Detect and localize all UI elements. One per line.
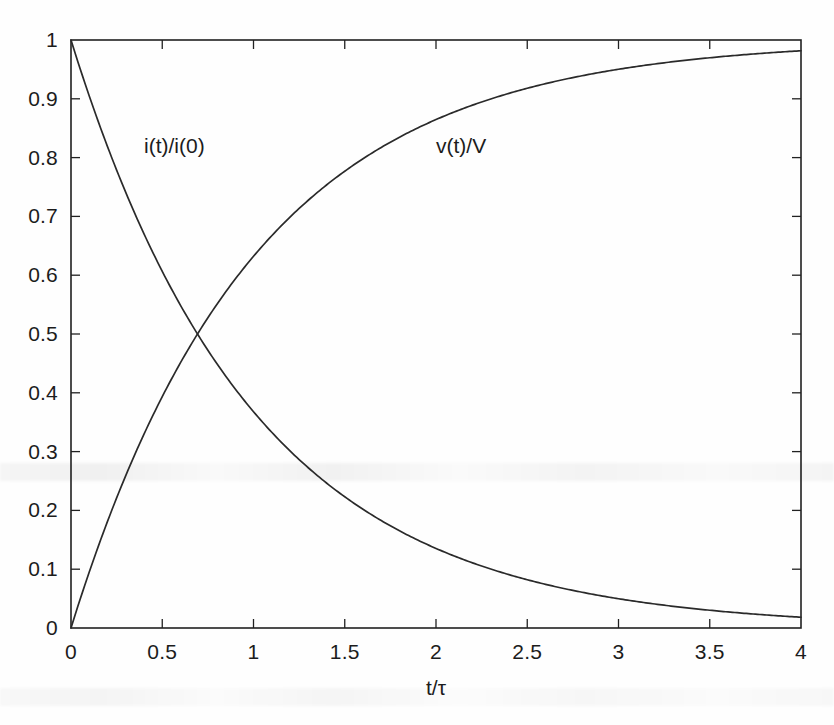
y-tick-label: 0.5	[0, 322, 58, 346]
x-tick-label: 0	[65, 640, 77, 664]
x-tick-label: 1	[248, 640, 260, 664]
curve-label-current: i(t)/i(0)	[144, 134, 205, 158]
y-tick-label: 0.8	[0, 146, 58, 170]
x-tick-label: 0.5	[147, 640, 177, 664]
figure-root: 00.10.20.30.40.50.60.70.80.91 00.511.522…	[0, 0, 834, 725]
y-tick-label: 0.2	[0, 498, 58, 522]
y-tick-label: 0.7	[0, 204, 58, 228]
y-tick-label: 0.9	[0, 87, 58, 111]
y-tick-label: 0.1	[0, 557, 58, 581]
plot-frame	[71, 40, 801, 628]
exponential-transient-plot	[0, 0, 834, 725]
x-axis-title: t/τ	[426, 676, 446, 700]
x-tick-label: 3.5	[695, 640, 725, 664]
tick-marks	[71, 40, 801, 628]
y-tick-label: 0.3	[0, 440, 58, 464]
curve-current-decay	[71, 40, 801, 617]
y-tick-label: 1	[0, 28, 58, 52]
y-tick-label: 0	[0, 616, 58, 640]
curve-label-voltage: v(t)/V	[436, 134, 486, 158]
x-tick-label: 3	[613, 640, 625, 664]
x-tick-label: 2	[430, 640, 442, 664]
x-tick-label: 1.5	[330, 640, 360, 664]
y-tick-label: 0.6	[0, 263, 58, 287]
x-tick-label: 2.5	[512, 640, 542, 664]
x-tick-label: 4	[795, 640, 807, 664]
y-tick-label: 0.4	[0, 381, 58, 405]
